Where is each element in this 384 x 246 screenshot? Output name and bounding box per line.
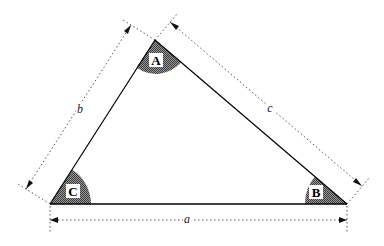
arrow-b-end-icon [124, 25, 131, 34]
side-c-label: c [267, 101, 273, 115]
side-b-line [50, 40, 155, 204]
vertex-c-label: C [68, 184, 77, 199]
arrow-a-end-icon [339, 217, 347, 223]
side-b-label: b [77, 102, 83, 116]
arrow-c-end-icon [353, 178, 362, 186]
vertex-b-label: B [312, 185, 321, 200]
arrow-c-start-icon [170, 22, 179, 30]
arrow-a-start-icon [50, 217, 58, 223]
side-a-label: a [184, 212, 190, 226]
vertex-a-label: A [151, 53, 161, 68]
arrow-b-start-icon [26, 180, 33, 189]
triangle-diagram: A C B b c a [0, 0, 384, 246]
side-c-line [155, 40, 347, 204]
